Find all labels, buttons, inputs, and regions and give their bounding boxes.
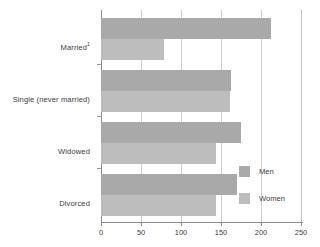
bar-chart: Married1 Single (never married) Widowed …	[0, 0, 320, 247]
category-label-divorced: Divorced	[0, 199, 90, 208]
x-tick-150	[221, 222, 222, 226]
bar-married-women	[101, 39, 164, 60]
legend-label-men: Men	[259, 167, 274, 176]
bar-widowed-men	[101, 122, 241, 143]
bar-single-women	[101, 91, 230, 112]
category-axis-labels: Married1 Single (never married) Widowed …	[0, 12, 96, 222]
x-axis-label-100: 100	[175, 228, 187, 237]
x-axis-label-0: 0	[99, 228, 103, 237]
x-axis-label-200: 200	[255, 228, 267, 237]
category-tick-2	[97, 116, 102, 117]
category-label-single-text: Single (never married)	[13, 95, 90, 104]
bar-married-men	[101, 18, 271, 39]
x-axis-label-250: 250	[295, 228, 307, 237]
x-tick-50	[141, 222, 142, 226]
legend-label-women: Women	[259, 194, 285, 203]
x-axis-label-50: 50	[137, 228, 145, 237]
x-tick-0	[101, 222, 102, 226]
category-label-married-text: Married	[61, 43, 87, 52]
bar-single-men	[101, 70, 231, 91]
category-label-divorced-text: Divorced	[59, 199, 90, 208]
x-axis-line	[101, 222, 303, 223]
category-label-married-footnote: 1	[87, 41, 90, 47]
x-tick-250	[301, 222, 302, 226]
chart-legend: Men Women	[239, 166, 315, 210]
x-axis-tick-labels: 0 50 100 150 200 250	[101, 228, 311, 242]
x-tick-100	[181, 222, 182, 226]
bar-divorced-women	[101, 195, 216, 216]
x-tick-200	[261, 222, 262, 226]
bar-divorced-men	[101, 174, 237, 195]
legend-item-women: Women	[239, 193, 285, 204]
bar-widowed-women	[101, 143, 216, 164]
x-axis-label-150: 150	[215, 228, 227, 237]
category-label-married: Married1	[0, 43, 90, 52]
category-tick-1	[97, 64, 102, 65]
legend-swatch-men-icon	[239, 166, 250, 177]
category-tick-3	[97, 168, 102, 169]
category-label-single: Single (never married)	[0, 95, 90, 104]
category-label-widowed: Widowed	[0, 147, 90, 156]
category-label-widowed-text: Widowed	[58, 147, 90, 156]
legend-item-men: Men	[239, 166, 274, 177]
legend-swatch-women-icon	[239, 193, 250, 204]
